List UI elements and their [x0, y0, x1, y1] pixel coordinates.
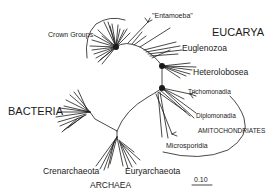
- label-euglenozoa: Euglenozoa: [182, 44, 227, 53]
- euglenozoa-leaves: [140, 28, 182, 58]
- node-crown-groups: [113, 44, 119, 50]
- crenarchaeota-leaves: [96, 137, 117, 170]
- entamoeba-leaves: [128, 18, 152, 45]
- label-crown-groups: Crown Groups: [48, 31, 93, 38]
- branch-backbone-lower: [117, 88, 162, 131]
- label-crenarchaeota: Crenarchaeota: [43, 167, 99, 176]
- label-heterolobosea: Heterolobosea: [193, 68, 248, 77]
- crown-groups-arc: [86, 18, 125, 58]
- heterolobosea-leaves: [162, 63, 196, 78]
- label-diplomonadia: Diplomonadia: [196, 113, 236, 120]
- label-eucarya: EUCARYA: [212, 27, 264, 38]
- label-bacteria: BACTERIA: [8, 106, 63, 117]
- label-trichomonadia: Trichomonadia: [188, 89, 231, 96]
- node-heterolobosea: [159, 63, 165, 69]
- node-amitochondriates: [159, 85, 165, 91]
- crown-groups-leaves: [90, 22, 130, 64]
- label-euryarchaeota: Euryarchaeota: [125, 167, 180, 176]
- label-archaea: ARCHAEA: [90, 181, 131, 190]
- label-microsporidia: Microsporidia: [166, 142, 208, 149]
- euryarchaeota-leaves: [117, 137, 140, 168]
- label-amitochondriates: AMITOCHONDRIATES: [198, 128, 265, 135]
- label-entamoeba: "Entamoeba": [152, 12, 193, 19]
- branch-bacteria-stem: [90, 112, 117, 131]
- phylogenetic-tree-figure: Crown Groups "Entamoeba" EUCARYA Eugleno…: [0, 0, 274, 193]
- scale-bar-label: 0.10: [194, 176, 208, 183]
